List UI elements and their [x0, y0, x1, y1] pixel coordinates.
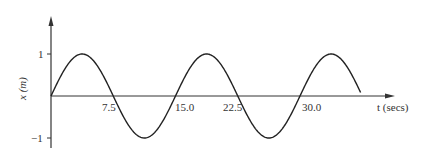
sine-wave-chart: 1 −1 x (m) 7.5 15.0 22.5 30.0 t (secs): [0, 0, 428, 154]
x-axis-arrow-icon: [385, 94, 395, 99]
x-tick-label-22.5: 22.5: [223, 101, 243, 113]
x-tick-label-7.5: 7.5: [102, 101, 116, 113]
y-axis-arrow-icon: [49, 16, 54, 26]
x-axis-label: t (secs): [377, 101, 409, 114]
y-axis-label: x (m): [16, 77, 29, 101]
y-tick-label-neg1: −1: [31, 132, 43, 144]
y-tick-label-1: 1: [38, 48, 44, 60]
x-tick-label-30: 30.0: [302, 101, 322, 113]
x-tick-label-15: 15.0: [175, 101, 195, 113]
